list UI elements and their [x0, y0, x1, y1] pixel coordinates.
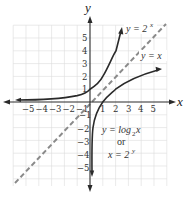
- svg-text:y = x: y = x: [140, 50, 162, 61]
- svg-text:3: 3: [126, 104, 131, 114]
- x-axis-label: x: [176, 94, 183, 109]
- svg-text:−5: −5: [22, 104, 35, 114]
- identity-label: y = x: [139, 50, 167, 61]
- x-axis-arrow-right-icon: [169, 100, 176, 105]
- function-graph: y x −5 −4 −3 −2 −1 1 2 3 4 5 5 4 3 2 1 −…: [0, 0, 189, 199]
- svg-text:or: or: [117, 136, 126, 147]
- svg-text:x: x: [135, 124, 141, 135]
- svg-text:−1: −1: [79, 110, 92, 120]
- exponential-curve: [18, 31, 121, 100]
- svg-text:y = log: y = log: [101, 124, 131, 135]
- svg-text:2: 2: [82, 72, 87, 82]
- svg-text:3: 3: [82, 59, 87, 69]
- svg-text:5: 5: [151, 104, 156, 114]
- svg-text:−4: −4: [36, 104, 49, 114]
- svg-text:5: 5: [82, 33, 87, 43]
- y-axis-label: y: [83, 0, 91, 15]
- svg-text:x = 2: x = 2: [107, 149, 129, 160]
- svg-text:4: 4: [82, 46, 87, 56]
- y-tick-labels: 5 4 3 2 1 −1 −2 −3 −4 −5: [77, 33, 92, 173]
- y-axis-arrow-up-icon: [88, 16, 93, 23]
- svg-text:−4: −4: [77, 150, 90, 160]
- svg-text:y = 2: y = 2: [125, 23, 147, 34]
- exponential-arrow-icon: [118, 27, 123, 35]
- svg-text:y: y: [131, 147, 136, 155]
- svg-text:−5: −5: [77, 163, 90, 173]
- svg-text:1: 1: [100, 104, 105, 114]
- logarithm-label: y = log 2 x or x = 2 y: [101, 124, 141, 160]
- svg-text:4: 4: [138, 104, 143, 114]
- exponential-label: y = 2 x: [124, 21, 157, 34]
- exponential-left-arrow-icon: [15, 98, 21, 102]
- svg-text:1: 1: [82, 84, 87, 94]
- svg-text:−2: −2: [77, 124, 90, 134]
- x-axis-arrow-left-icon: [3, 100, 10, 105]
- y-axis-arrow-down-icon: [88, 185, 93, 192]
- svg-text:−3: −3: [77, 137, 90, 147]
- svg-text:−3: −3: [49, 104, 62, 114]
- svg-text:−2: −2: [63, 104, 76, 114]
- logarithmic-arrow-icon: [156, 67, 163, 72]
- svg-text:2: 2: [113, 104, 118, 114]
